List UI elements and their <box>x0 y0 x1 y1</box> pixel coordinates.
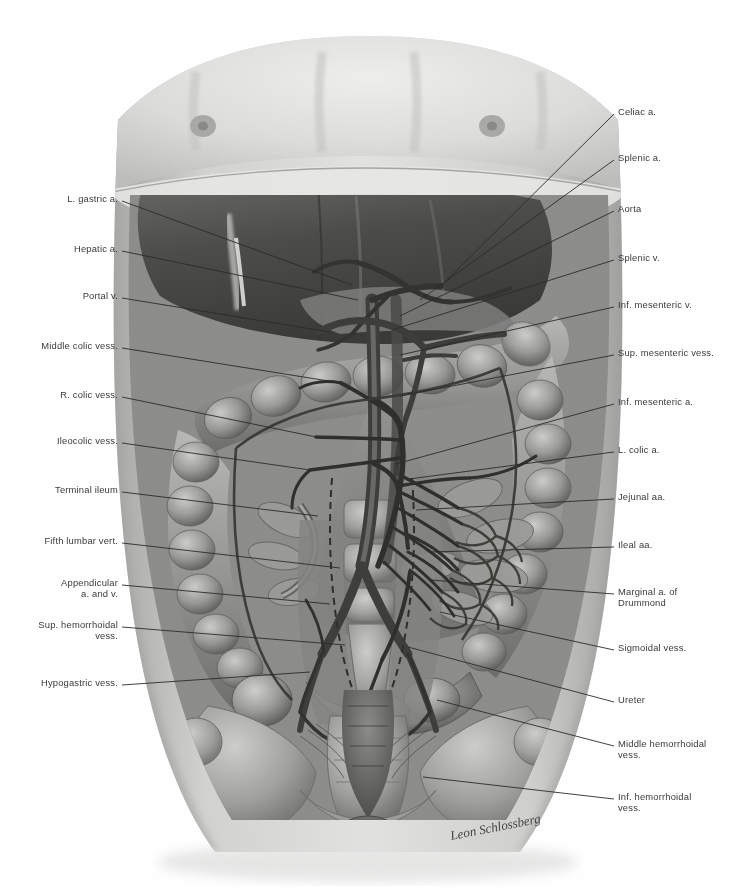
label-inf-mesenteric-v: Inf. mesenteric v. <box>618 299 692 310</box>
label-text: Fifth lumbar vert. <box>44 535 118 546</box>
label-text: Splenic a. <box>618 152 661 163</box>
label-text: Hepatic a. <box>74 243 118 254</box>
label-hepatic-a: Hepatic a. <box>74 243 118 254</box>
label-hypogastric-vess: Hypogastric vess. <box>41 677 118 688</box>
label-splenic-a: Splenic a. <box>618 152 661 163</box>
label-text: L. colic a. <box>618 444 660 455</box>
label-text: L. gastric a. <box>67 193 118 204</box>
label-portal-v: Portal v. <box>83 290 118 301</box>
label-text: Middle colic vess. <box>41 340 118 351</box>
label-splenic-v: Splenic v. <box>618 252 660 263</box>
label-middle-colic-vess: Middle colic vess. <box>41 340 118 351</box>
label-text: Portal v. <box>83 290 118 301</box>
label-text-line2: vess. <box>618 802 691 813</box>
label-sup-hemorrhoidal: Sup. hemorrhoidalvess. <box>38 619 118 642</box>
label-l-colic-a: L. colic a. <box>618 444 660 455</box>
label-text-line2: a. and v. <box>61 588 118 599</box>
label-text: Jejunal aa. <box>618 491 665 502</box>
label-ileal-aa: Ileal aa. <box>618 539 652 550</box>
label-celiac-a: Celiac a. <box>618 106 656 117</box>
label-text: Marginal a. of <box>618 586 677 597</box>
label-text: Middle hemorrhoidal <box>618 738 706 749</box>
label-text: Inf. mesenteric v. <box>618 299 692 310</box>
label-r-colic-vess: R. colic vess. <box>60 389 118 400</box>
label-text: Ileocolic vess. <box>57 435 118 446</box>
label-text-line2: vess. <box>38 630 118 641</box>
label-inf-hemorrhoidal: Inf. hemorrhoidalvess. <box>618 791 691 814</box>
label-fifth-lumbar-vert: Fifth lumbar vert. <box>44 535 118 546</box>
label-text: Sup. hemorrhoidal <box>38 619 118 630</box>
label-terminal-ileum: Terminal ileum <box>55 484 118 495</box>
label-sigmoidal-vess: Sigmoidal vess. <box>618 642 686 653</box>
label-text: Inf. hemorrhoidal <box>618 791 691 802</box>
label-text-line2: vess. <box>618 749 706 760</box>
label-sup-mesenteric-vess: Sup. mesenteric vess. <box>618 347 714 358</box>
label-ureter: Ureter <box>618 694 645 705</box>
label-appendicular-a-v: Appendiculara. and v. <box>61 577 118 600</box>
label-text: Inf. mesenteric a. <box>618 396 693 407</box>
label-text: Aorta <box>618 203 641 214</box>
label-text: R. colic vess. <box>60 389 118 400</box>
label-l-gastric-a: L. gastric a. <box>67 193 118 204</box>
label-text: Hypogastric vess. <box>41 677 118 688</box>
label-text: Ureter <box>618 694 645 705</box>
label-middle-hemorrhoidal: Middle hemorrhoidalvess. <box>618 738 706 761</box>
label-inf-mesenteric-a: Inf. mesenteric a. <box>618 396 693 407</box>
label-marginal-a-drummond: Marginal a. ofDrummond <box>618 586 677 609</box>
label-text: Appendicular <box>61 577 118 588</box>
label-text: Terminal ileum <box>55 484 118 495</box>
label-text: Sup. mesenteric vess. <box>618 347 714 358</box>
anatomy-plate: L. gastric a.Hepatic a.Portal v.Middle c… <box>0 0 735 894</box>
label-text: Celiac a. <box>618 106 656 117</box>
label-aorta: Aorta <box>618 203 641 214</box>
label-jejunal-aa: Jejunal aa. <box>618 491 665 502</box>
label-text: Sigmoidal vess. <box>618 642 686 653</box>
label-text: Ileal aa. <box>618 539 652 550</box>
label-text: Splenic v. <box>618 252 660 263</box>
label-text-line2: Drummond <box>618 597 677 608</box>
label-ileocolic-vess: Ileocolic vess. <box>57 435 118 446</box>
